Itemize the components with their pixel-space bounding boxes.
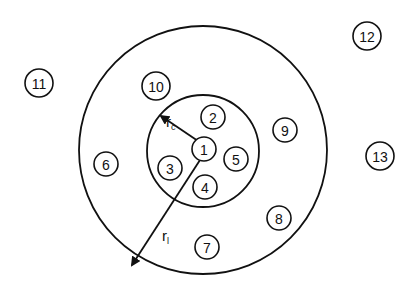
node-6: 6 — [94, 152, 118, 176]
node-7: 7 — [195, 235, 219, 259]
radius-label-rc: rc — [166, 113, 176, 132]
node-label: 13 — [372, 149, 388, 165]
node-label: 7 — [203, 240, 211, 256]
node-label: 8 — [275, 211, 283, 227]
node-label: 1 — [200, 142, 208, 158]
node-label: 10 — [148, 79, 164, 95]
node-label: 9 — [281, 123, 289, 139]
node-11: 11 — [25, 69, 53, 97]
node-label: 2 — [209, 110, 217, 126]
node-9: 9 — [273, 118, 297, 142]
node-5: 5 — [224, 147, 248, 171]
node-label: 11 — [32, 76, 47, 92]
node-label: 12 — [359, 29, 375, 45]
node-label: 5 — [232, 152, 240, 168]
radius-label-rl: rl — [162, 227, 169, 246]
node-label: 4 — [201, 180, 209, 196]
node-13: 13 — [366, 142, 394, 170]
node-4: 4 — [193, 175, 217, 199]
node-1: 1 — [192, 137, 216, 161]
node-label: 3 — [166, 161, 174, 177]
node-8: 8 — [267, 206, 291, 230]
node-12: 12 — [353, 22, 381, 50]
node-10: 10 — [142, 72, 170, 100]
node-3: 3 — [158, 156, 182, 180]
node-2: 2 — [201, 105, 225, 129]
concentric-cell-diagram: 12345678910111213 rc rl — [0, 0, 415, 304]
node-label: 6 — [102, 157, 110, 173]
